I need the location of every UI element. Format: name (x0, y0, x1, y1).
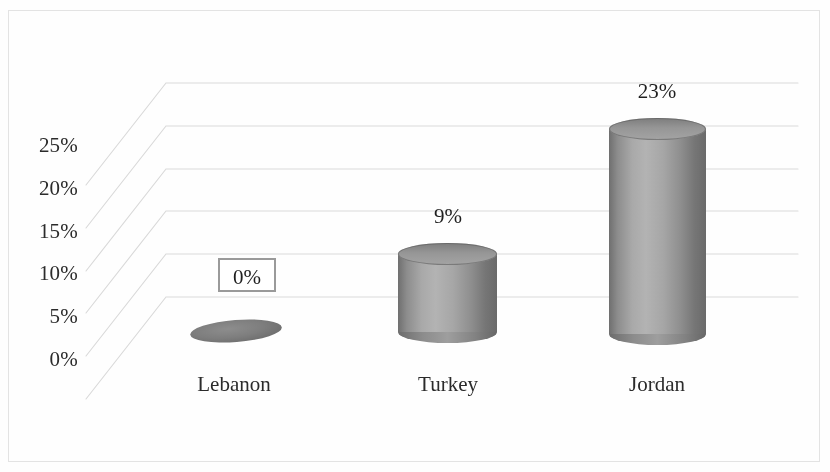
chart-canvas: 25% 20% 15% 10% 5% 0% 0% 9% 23% Lebanon … (0, 0, 830, 472)
bar-jordan[interactable] (609, 118, 706, 346)
bar-turkey[interactable] (398, 243, 497, 343)
y-axis-tick-5: 5% (18, 304, 78, 329)
y-axis-tick-25: 25% (18, 133, 78, 158)
x-axis-label-lebanon: Lebanon (134, 372, 334, 397)
data-label-turkey[interactable]: 9% (388, 204, 508, 229)
y-axis-tick-20: 20% (18, 176, 78, 201)
x-axis-label-jordan: Jordan (557, 372, 757, 397)
y-axis-tick-0: 0% (18, 347, 78, 372)
bar-turkey-body (398, 254, 497, 332)
bar-jordan-cap (609, 118, 706, 140)
x-axis-label-turkey: Turkey (348, 372, 548, 397)
y-axis-tick-10: 10% (18, 261, 78, 286)
bar-lebanon[interactable] (190, 320, 282, 344)
bar-lebanon-disc (189, 316, 282, 345)
y-axis-tick-15: 15% (18, 219, 78, 244)
data-label-lebanon[interactable]: 0% (218, 258, 276, 292)
bar-jordan-body (609, 129, 706, 334)
bar-turkey-cap (398, 243, 497, 265)
data-label-jordan[interactable]: 23% (597, 79, 717, 104)
plot-area: 25% 20% 15% 10% 5% 0% 0% 9% 23% Lebanon … (0, 0, 830, 472)
